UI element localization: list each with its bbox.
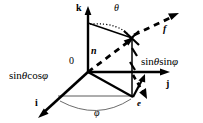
f-vector — [134, 13, 179, 35]
k-axis-arrowhead — [85, 6, 92, 15]
origin-to-projection-line — [88, 72, 133, 97]
sin-theta-cos-phi-cos: cos — [27, 69, 42, 81]
i-axis-line — [43, 72, 88, 113]
sin-theta-cos-phi-label: sinθcosφ — [9, 70, 48, 81]
f-vector-arrowhead — [168, 13, 179, 20]
e-vector-label: e — [137, 99, 141, 108]
i-axis-label: i — [35, 98, 38, 108]
drop-line-ticks — [130, 48, 137, 70]
projection-tangent-line — [133, 80, 142, 97]
f-vector-label: f — [163, 24, 166, 34]
sin-theta-sin-phi-sin1: sin — [141, 55, 154, 67]
sin-theta-sin-phi-phi: φ — [172, 55, 178, 67]
sin-theta-sin-phi-sin2: sin — [159, 55, 172, 67]
k-axis-label: k — [76, 3, 82, 13]
origin-label: 0 — [69, 56, 74, 66]
j-axis-arrowhead — [160, 68, 170, 75]
j-axis — [88, 68, 170, 75]
j-axis-label: j — [166, 79, 169, 89]
phi-angle-label: φ — [94, 108, 100, 118]
figure-container: k j i 0 θ φ n f e sinθcosφ sinθsinφ — [0, 0, 203, 123]
k-axis — [85, 6, 92, 72]
n-vector-label: n — [91, 46, 97, 56]
projection-tangent-arrowhead — [138, 74, 145, 82]
sin-theta-cos-phi-phi: φ — [42, 69, 48, 81]
sin-theta-cos-phi-sin: sin — [9, 69, 22, 81]
sin-theta-sin-phi-label: sinθsinφ — [141, 56, 178, 67]
theta-angle-label: θ — [114, 3, 119, 13]
